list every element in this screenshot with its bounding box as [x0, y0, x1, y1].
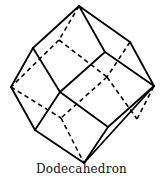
visible-edges — [11, 6, 154, 163]
visible-edge — [35, 130, 84, 163]
visible-edge — [84, 86, 154, 163]
dodecahedron-wireframe — [0, 0, 163, 168]
visible-edge — [79, 6, 130, 42]
visible-edge — [60, 52, 105, 92]
visible-edge — [84, 127, 108, 163]
hidden-edge — [107, 42, 130, 77]
hidden-edge — [59, 6, 79, 40]
visible-edge — [60, 92, 108, 127]
visible-edge — [108, 86, 154, 127]
figure-caption: Dodecahedron — [0, 162, 163, 176]
visible-edge — [35, 92, 60, 130]
visible-edge — [79, 6, 105, 52]
dodecahedron-figure — [0, 0, 163, 168]
visible-edge — [11, 87, 35, 130]
visible-edge — [33, 48, 60, 92]
visible-edge — [33, 6, 79, 48]
visible-edge — [130, 42, 154, 86]
visible-edge — [11, 48, 33, 87]
hidden-edge — [107, 77, 137, 119]
hidden-edges — [11, 6, 154, 163]
